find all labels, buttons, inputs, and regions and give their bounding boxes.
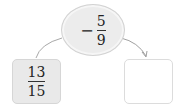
input-numerator: 13: [28, 65, 46, 79]
connector-left: [36, 38, 62, 58]
input-box: 13 15: [12, 59, 61, 104]
arrow-right: [121, 38, 146, 56]
operator-denominator: 9: [97, 33, 106, 47]
input-denominator: 15: [28, 84, 46, 98]
answer-box[interactable]: [124, 59, 173, 104]
operator-fraction: 5 9: [97, 14, 106, 47]
minus-sign: −: [80, 21, 93, 40]
fraction-bar: [97, 30, 106, 31]
input-fraction: 13 15: [28, 65, 46, 98]
operator-ellipse: − 5 9: [61, 4, 125, 56]
operator-numerator: 5: [97, 14, 106, 28]
fraction-bar: [28, 81, 46, 82]
